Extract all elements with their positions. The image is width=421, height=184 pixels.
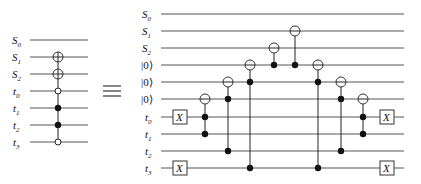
target-icon <box>336 77 346 87</box>
label-s1: S1 <box>142 25 151 40</box>
target-icon <box>200 94 210 104</box>
control-icon <box>225 148 231 154</box>
target-icon <box>269 43 279 53</box>
label-ancilla-1: |0⟩ <box>141 59 153 71</box>
control-icon <box>360 131 366 137</box>
svg-text:X: X <box>175 162 184 174</box>
label-t3: t3 <box>145 162 152 177</box>
toffoli-gate-6 <box>358 94 368 137</box>
control-icon <box>202 114 208 120</box>
target-icon <box>358 94 368 104</box>
control-icon <box>360 114 366 120</box>
label-s2: S2 <box>12 68 22 83</box>
label-s0: S0 <box>12 34 22 49</box>
open-control-icon <box>55 139 61 145</box>
open-control-icon <box>55 88 61 94</box>
right-circuit: S0 S1 S2 |0⟩ |0⟩ |0⟩ t0 t1 t2 t3 <box>141 8 404 177</box>
target-icon <box>245 60 255 70</box>
svg-text:X: X <box>382 162 391 174</box>
toffoli-gate-5 <box>336 77 346 154</box>
label-t2: t2 <box>145 145 152 160</box>
x-gate-t3-end: X <box>380 161 394 175</box>
label-s0: S0 <box>142 8 152 23</box>
svg-text:X: X <box>382 111 391 123</box>
control-icon <box>315 165 321 171</box>
control-icon <box>271 62 277 68</box>
x-gate-t3-start: X <box>173 161 187 175</box>
control-icon <box>338 96 344 102</box>
target-icon <box>223 77 233 87</box>
x-gate-t0-start: X <box>173 110 187 124</box>
filled-control-icon <box>55 105 61 111</box>
label-t1: t1 <box>13 102 20 117</box>
target-icon <box>53 69 63 79</box>
cnot-gate-s2 <box>269 43 279 68</box>
left-circuit: S0 S1 S2 t0 t1 t2 t3 <box>12 34 88 151</box>
control-icon <box>292 62 298 68</box>
label-t0: t0 <box>145 111 152 126</box>
label-t0: t0 <box>13 85 20 100</box>
control-icon <box>247 79 253 85</box>
control-icon <box>338 148 344 154</box>
label-s1: S1 <box>12 51 21 66</box>
target-icon <box>53 52 63 62</box>
label-t2: t2 <box>13 119 20 134</box>
equivalence-icon <box>103 86 121 96</box>
toffoli-gate-3 <box>245 60 255 171</box>
label-ancilla-3: |0⟩ <box>141 93 153 105</box>
control-icon <box>202 131 208 137</box>
multi-controlled-x-gate <box>53 52 63 145</box>
label-ancilla-2: |0⟩ <box>141 76 153 88</box>
left-wire-labels: S0 S1 S2 t0 t1 t2 t3 <box>12 34 22 151</box>
svg-text:X: X <box>175 111 184 123</box>
label-t3: t3 <box>13 136 20 151</box>
target-icon <box>290 26 300 36</box>
toffoli-gate-2 <box>223 77 233 154</box>
right-wire-labels: S0 S1 S2 |0⟩ |0⟩ |0⟩ t0 t1 t2 t3 <box>141 8 153 177</box>
right-wires <box>161 14 404 168</box>
control-icon <box>225 96 231 102</box>
label-s2: S2 <box>142 42 152 57</box>
toffoli-gate-4 <box>313 60 323 171</box>
control-icon <box>315 79 321 85</box>
control-icon <box>247 165 253 171</box>
toffoli-gate-1 <box>200 94 210 137</box>
cnot-gate-s1 <box>290 26 300 68</box>
circuit-diagram: S0 S1 S2 t0 t1 t2 t3 <box>0 0 421 184</box>
label-t1: t1 <box>145 128 152 143</box>
target-icon <box>313 60 323 70</box>
filled-control-icon <box>55 122 61 128</box>
x-gate-t0-end: X <box>380 110 394 124</box>
